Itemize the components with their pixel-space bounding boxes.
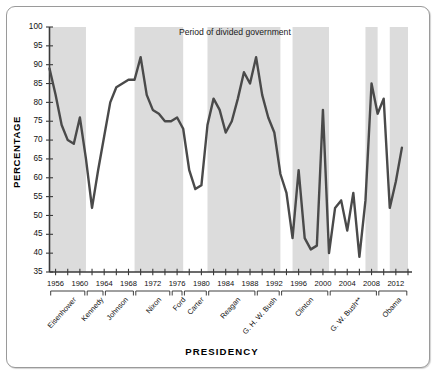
presidency-label: Reagan xyxy=(218,295,242,320)
presidency-label: Kennedy xyxy=(79,295,105,323)
x-axis-tick-label: 1960 xyxy=(71,279,88,288)
presidency-label: Obama xyxy=(380,295,404,320)
x-axis-tick-label: 1972 xyxy=(144,279,161,288)
y-axis-tick-label: 85 xyxy=(33,79,43,88)
x-axis-tick-label: 1968 xyxy=(120,279,137,288)
ytick-labels: 35404550556065707580859095100 xyxy=(29,22,43,276)
y-axis-tick-label: 95 xyxy=(33,41,43,50)
chart-container: 35404550556065707580859095100 1956196019… xyxy=(0,0,440,378)
presidency-label: G. H. W. Bush xyxy=(241,295,279,336)
presidency-label: Carter xyxy=(185,295,206,317)
presidency-bracket xyxy=(379,291,407,296)
x-axis-tick-label: 1980 xyxy=(193,279,210,288)
x-axis-tick-label: 1976 xyxy=(169,279,186,288)
x-axis-tick-label: 1984 xyxy=(217,279,234,288)
legend-swatch xyxy=(163,28,174,39)
x-axis-tick-label: 1956 xyxy=(47,279,64,288)
y-axis-tick-label: 100 xyxy=(29,22,43,31)
presidency-bracket xyxy=(105,291,133,296)
x-axis-tick-label: 2000 xyxy=(314,279,331,288)
presidency-bracket xyxy=(87,291,103,296)
y-axis-tick-label: 90 xyxy=(33,60,43,69)
legend: Period of divided government xyxy=(163,27,291,38)
x-axis-title: PRESIDENCY xyxy=(185,346,258,357)
presidency-label: G. W. Bush** xyxy=(328,295,364,333)
x-axis-tick-label: 2008 xyxy=(363,279,380,288)
x-axis-tick-label: 1964 xyxy=(96,279,113,288)
y-axis-tick-label: 75 xyxy=(33,116,43,125)
x-axis-tick-label: 1992 xyxy=(266,279,283,288)
y-axis-tick-label: 55 xyxy=(33,192,43,201)
presidency-bracket xyxy=(136,291,170,296)
presidency-label: Nixon xyxy=(144,295,163,315)
y-axis-title: PERCENTAGE xyxy=(11,116,22,188)
presidency-label: Clinton xyxy=(293,295,315,318)
divided-government-band xyxy=(50,27,86,272)
x-axis-tick-label: 2012 xyxy=(387,279,404,288)
presidency-bracket xyxy=(257,291,279,296)
bands-layer xyxy=(50,27,409,272)
y-axis-tick-label: 80 xyxy=(33,98,43,107)
presidency-percentage-line-chart: 35404550556065707580859095100 1956196019… xyxy=(0,0,440,378)
y-axis-tick-label: 40 xyxy=(33,248,43,257)
presidency-bracket xyxy=(51,291,85,296)
xtick-labels: 1956196019641968197219761980198419881992… xyxy=(47,279,404,288)
y-axis-tick-label: 65 xyxy=(33,154,43,163)
y-axis-tick-label: 70 xyxy=(33,135,43,144)
presidency-bracket xyxy=(172,291,182,296)
presidency-label: Eisenhower xyxy=(46,295,79,330)
divided-government-band xyxy=(390,27,408,272)
presidency-names: EisenhowerKennedyJohnsonNixonFordCarterR… xyxy=(46,295,404,336)
presidency-bracket xyxy=(330,291,376,296)
legend-label: Period of divided government xyxy=(179,27,291,37)
x-axis-tick-label: 1996 xyxy=(290,279,307,288)
y-axis-tick-label: 60 xyxy=(33,173,43,182)
presidency-bracket xyxy=(282,291,328,296)
y-axis-tick-label: 50 xyxy=(33,211,43,220)
divided-government-band xyxy=(207,27,280,272)
x-axis-tick-label: 1988 xyxy=(242,279,259,288)
presidency-brackets xyxy=(51,291,407,296)
x-axis-tick-label: 2004 xyxy=(339,279,356,288)
y-axis-tick-label: 45 xyxy=(33,229,43,238)
y-axis-tick-label: 35 xyxy=(33,267,43,276)
presidency-label: Johnson xyxy=(104,295,129,322)
presidency-bracket xyxy=(184,291,206,296)
presidency-bracket xyxy=(209,291,255,296)
